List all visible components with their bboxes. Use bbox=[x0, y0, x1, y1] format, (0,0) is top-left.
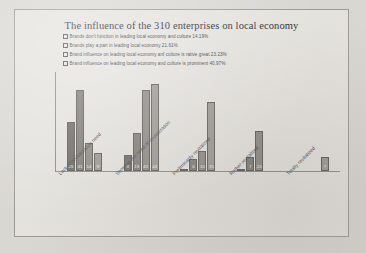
bar-groups: 2541149819414416103517207 bbox=[56, 72, 340, 171]
chart-legend: Brands don't function in leading local e… bbox=[63, 32, 313, 68]
legend-item[interactable]: Brand influence on leading local economy… bbox=[63, 59, 313, 68]
legend-swatch-icon bbox=[63, 43, 68, 48]
legend-item[interactable]: Brand influence on leading local economy… bbox=[63, 50, 313, 59]
legend-item-label: Brand influence on leading local economy… bbox=[70, 52, 227, 57]
legend-item-label: Brand influence on leading local economy… bbox=[70, 61, 226, 66]
bar-value-label: 10 bbox=[199, 164, 205, 169]
chart-title: The influence of the 310 enterprises on … bbox=[15, 20, 348, 31]
bar-group: 161035 bbox=[170, 72, 227, 171]
legend-item-label: Brands don't function in leading local e… bbox=[70, 34, 209, 39]
bar-value-label: 41 bbox=[77, 164, 83, 169]
screenshot-page: The influence of the 310 enterprises on … bbox=[0, 0, 366, 253]
bar[interactable]: 6 bbox=[189, 159, 197, 171]
bar-value-label: 44 bbox=[152, 164, 158, 169]
bar-value-label: 41 bbox=[143, 164, 149, 169]
bar-group: 1720 bbox=[226, 72, 283, 171]
legend-swatch-icon bbox=[63, 61, 68, 66]
legend-item-label: Brands play a part in leading local econ… bbox=[70, 43, 178, 48]
chart-frame: The influence of the 310 enterprises on … bbox=[14, 9, 349, 237]
bar[interactable]: 10 bbox=[198, 151, 206, 171]
bar-value-label: 7 bbox=[247, 164, 253, 169]
plot-area: 2541149819414416103517207 bbox=[55, 72, 340, 172]
x-axis-labels: Lack of revitalization needShowing the n… bbox=[55, 172, 340, 238]
bar-value-label: 14 bbox=[86, 164, 92, 169]
bar-value-label: 20 bbox=[256, 164, 262, 169]
bar[interactable]: 41 bbox=[142, 90, 150, 171]
bar-value-label: 7 bbox=[322, 164, 328, 169]
bar-group: 7 bbox=[283, 72, 340, 171]
bar-value-label: 19 bbox=[134, 164, 140, 169]
bar-value-label: 6 bbox=[190, 164, 196, 169]
bar-value-label: 35 bbox=[208, 164, 214, 169]
bar-group: 8194144 bbox=[113, 72, 170, 171]
bar-value-label: 9 bbox=[95, 164, 101, 169]
bar-group: 2541149 bbox=[56, 72, 113, 171]
bar[interactable]: 9 bbox=[94, 153, 102, 171]
legend-swatch-icon bbox=[63, 34, 68, 39]
legend-item[interactable]: Brands play a part in leading local econ… bbox=[63, 41, 313, 50]
bar[interactable]: 35 bbox=[207, 102, 215, 171]
legend-swatch-icon bbox=[63, 52, 68, 57]
bar[interactable]: 7 bbox=[321, 157, 329, 171]
legend-item[interactable]: Brands don't function in leading local e… bbox=[63, 32, 313, 41]
